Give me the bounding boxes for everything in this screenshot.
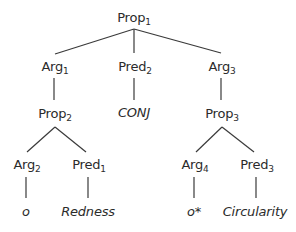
node-prop2: Prop2: [38, 106, 72, 122]
node-subscript: 3: [230, 66, 236, 76]
node-label: Pred: [118, 59, 146, 74]
node-label: Arg: [41, 59, 63, 74]
node-label: Pred: [240, 157, 268, 172]
node-arg1: Arg1: [41, 59, 68, 75]
node-label: Arg: [181, 157, 203, 172]
node-label: o*: [187, 204, 201, 219]
leaf-o: o: [22, 204, 30, 220]
node-subscript: 2: [146, 66, 152, 76]
node-subscript: 1: [145, 17, 151, 27]
node-subscript: 2: [66, 113, 72, 123]
leaf-o-star: o*: [187, 204, 201, 220]
node-label: Prop: [38, 106, 66, 121]
node-label: o: [22, 204, 30, 219]
node-pred2: Pred2: [118, 59, 152, 75]
node-label: Pred: [72, 157, 100, 172]
node-subscript: 4: [203, 164, 209, 174]
edge-prop1-arg1: [55, 29, 134, 54]
edge-prop3-pred3: [222, 127, 254, 152]
node-arg4: Arg4: [181, 157, 208, 173]
node-subscript: 3: [268, 164, 274, 174]
node-label: Prop: [205, 106, 233, 121]
node-label: Circularity: [223, 204, 288, 219]
edge-prop2-pred1: [55, 127, 86, 152]
node-label: CONJ: [118, 105, 150, 120]
node-arg3: Arg3: [208, 59, 235, 75]
leaf-circularity: Circularity: [223, 204, 288, 220]
node-subscript: 1: [63, 66, 69, 76]
node-arg2: Arg2: [13, 157, 40, 173]
edge-prop1-arg3: [134, 29, 221, 53]
node-pred3: Pred3: [240, 157, 274, 173]
node-subscript: 2: [35, 164, 41, 174]
edge-prop2-arg2: [27, 127, 55, 152]
node-subscript: 1: [100, 164, 106, 174]
node-conj: CONJ: [118, 105, 150, 121]
node-label: Redness: [61, 204, 115, 219]
node-prop3: Prop3: [205, 106, 239, 122]
node-label: Prop: [117, 10, 145, 25]
leaf-redness: Redness: [61, 204, 115, 220]
edge-prop3-arg4: [196, 127, 222, 152]
node-subscript: 3: [233, 113, 239, 123]
node-label: Arg: [208, 59, 230, 74]
node-label: Arg: [13, 157, 35, 172]
node-pred1: Pred1: [72, 157, 106, 173]
node-prop1: Prop1: [117, 10, 151, 26]
